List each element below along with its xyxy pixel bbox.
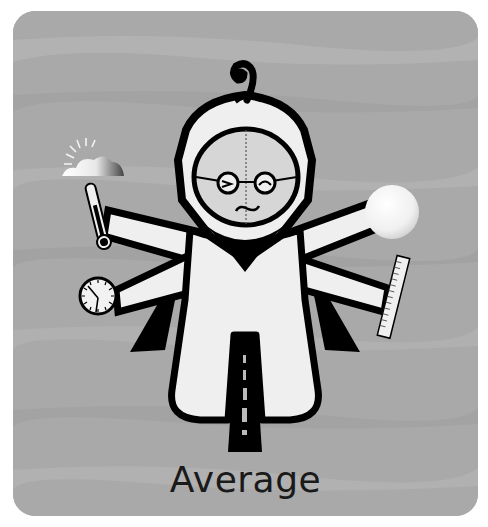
character-illustration [13,11,478,516]
ball-icon [365,185,419,239]
clock-icon [80,278,116,314]
face [194,129,298,225]
caption: Average [13,459,478,500]
illustration-card: Average [13,11,478,516]
